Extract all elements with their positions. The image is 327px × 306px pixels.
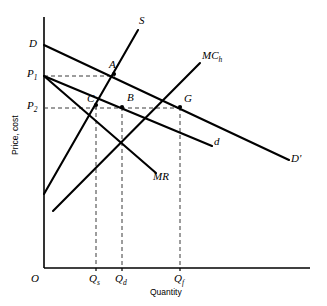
curve-label-D-prime: D'	[291, 153, 301, 164]
plot-canvas	[0, 0, 327, 306]
point-label-G: G	[184, 93, 192, 104]
y-axis-title: Price, cost	[11, 115, 20, 155]
curve-label-MCh-subscript: h	[219, 55, 223, 64]
point-label-B: B	[127, 92, 134, 103]
quantity-tick-qd-subscript: d	[123, 278, 127, 287]
economics-diagram-figure: D D' S MCh d MR A B C G P1 P2 Qs Qd Q	[0, 0, 327, 306]
curve-label-MR: MR	[153, 171, 169, 182]
point-C	[94, 103, 98, 107]
curve-label-D: D	[29, 38, 37, 49]
quantity-tick-label-qs: Qs	[89, 273, 100, 287]
point-label-A: A	[109, 59, 116, 70]
point-G	[178, 105, 182, 109]
curve-marginal-cost-MCh	[53, 63, 200, 211]
point-label-C: C	[87, 93, 94, 104]
point-A	[112, 72, 116, 76]
quantity-tick-label-qd: Qd	[115, 273, 127, 287]
price-tick-label-p1: P1	[27, 68, 37, 82]
curve-market-supply-S	[44, 30, 138, 194]
quantity-tick-qs-subscript: s	[97, 278, 100, 287]
axes-group	[44, 17, 310, 268]
quantity-tick-label-qf: Qf	[174, 273, 184, 287]
curves-group	[44, 30, 289, 211]
curve-market-demand-DD	[44, 45, 289, 160]
curve-label-S: S	[139, 15, 145, 26]
price-tick-p1-subscript: 1	[34, 73, 38, 82]
x-axis-title: Quantity	[150, 288, 182, 297]
origin-label: O	[31, 273, 39, 284]
curve-label-MCh: MCh	[202, 50, 222, 64]
price-tick-p2-subscript: 2	[34, 105, 38, 114]
price-tick-label-p2: P2	[27, 100, 37, 114]
point-B	[120, 105, 124, 109]
quantity-tick-qf-subscript: f	[182, 278, 184, 287]
curve-label-d: d	[214, 136, 220, 147]
